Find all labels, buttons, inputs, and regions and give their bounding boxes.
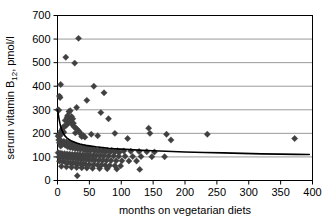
- ytick-label: 300: [32, 104, 50, 116]
- data-point: [144, 149, 150, 155]
- data-point: [84, 97, 90, 103]
- data-point: [163, 131, 169, 137]
- data-point: [137, 166, 143, 172]
- xtick-label: 250: [208, 186, 226, 198]
- ytick-label: 200: [32, 127, 50, 139]
- data-point: [112, 130, 118, 136]
- ytick-label: 400: [32, 80, 50, 92]
- xtick-label: 350: [271, 186, 289, 198]
- data-point: [105, 116, 111, 122]
- x-axis-title: months on vegetarian diets: [119, 204, 252, 216]
- ytick-label: 0: [44, 174, 50, 186]
- data-point: [124, 135, 130, 141]
- xtick-label: 0: [54, 186, 60, 198]
- data-point: [133, 158, 139, 164]
- xtick-label: 100: [112, 186, 130, 198]
- xtick-label: 150: [144, 186, 162, 198]
- ytick-label: 100: [32, 151, 50, 163]
- data-points: [55, 35, 298, 179]
- ytick-label: 500: [32, 56, 50, 68]
- data-point: [204, 131, 210, 137]
- xtick-label: 200: [176, 186, 194, 198]
- data-point: [74, 173, 80, 179]
- data-point: [75, 35, 81, 41]
- xtick-label: 50: [83, 186, 95, 198]
- data-point: [161, 153, 167, 159]
- data-point: [91, 83, 97, 89]
- scatter-plot: 0100200300400500600700050100150200250300…: [0, 0, 327, 221]
- data-point: [147, 130, 153, 136]
- data-point: [72, 60, 78, 66]
- data-point: [98, 109, 104, 115]
- xtick-label: 400: [303, 186, 321, 198]
- data-point: [126, 158, 132, 164]
- figure-container: 0100200300400500600700050100150200250300…: [0, 0, 327, 221]
- y-axis-title: serum vitamin B12, pmol/l: [4, 36, 19, 159]
- xtick-label: 300: [240, 186, 258, 198]
- ytick-label: 700: [32, 9, 50, 21]
- data-point: [57, 81, 63, 87]
- data-point: [145, 125, 151, 131]
- ytick-label: 600: [32, 33, 50, 45]
- data-point: [63, 54, 69, 60]
- data-point: [88, 131, 94, 137]
- data-point: [101, 90, 107, 96]
- data-point: [291, 135, 297, 141]
- data-point: [168, 137, 174, 143]
